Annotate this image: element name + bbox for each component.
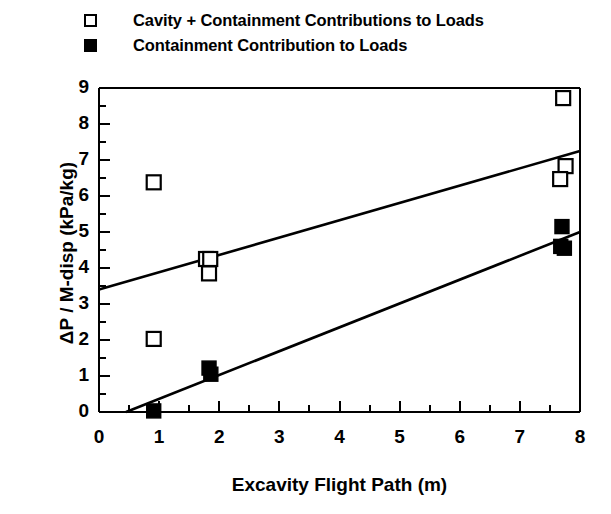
x-tick-label: 2 xyxy=(207,426,231,448)
x-tick-label: 1 xyxy=(147,426,171,448)
x-tick-label: 0 xyxy=(87,426,111,448)
data-point-open-square xyxy=(147,175,161,189)
data-markers xyxy=(147,91,573,418)
trendlines xyxy=(99,151,580,412)
trendline xyxy=(99,151,580,290)
data-point-open-square xyxy=(202,266,216,280)
data-point-filled-square xyxy=(204,367,218,381)
plot-area: 0123456789 012345678 xyxy=(0,0,611,514)
x-tick-label: 8 xyxy=(568,426,592,448)
chart-figure: Cavity + Containment Contributions to Lo… xyxy=(0,0,611,514)
x-axis-title: Excavity Flight Path (m) xyxy=(99,474,580,496)
data-point-open-square xyxy=(203,252,217,266)
axis-frame xyxy=(99,88,580,412)
data-point-open-square xyxy=(556,91,570,105)
trendline xyxy=(126,232,580,412)
data-point-filled-square xyxy=(147,404,161,418)
data-point-open-square xyxy=(553,172,567,186)
x-tick-label: 6 xyxy=(448,426,472,448)
data-point-filled-square xyxy=(557,241,571,255)
x-axis-ticks xyxy=(99,401,580,412)
data-point-filled-square xyxy=(555,220,569,234)
x-tick-label: 7 xyxy=(508,426,532,448)
x-tick-label: 4 xyxy=(328,426,352,448)
data-point-open-square xyxy=(147,332,161,346)
x-tick-label: 3 xyxy=(267,426,291,448)
y-axis-ticks xyxy=(99,88,110,412)
x-tick-label: 5 xyxy=(388,426,412,448)
y-axis-title: ΔP / M-disp (kPa/kg) xyxy=(56,83,78,423)
